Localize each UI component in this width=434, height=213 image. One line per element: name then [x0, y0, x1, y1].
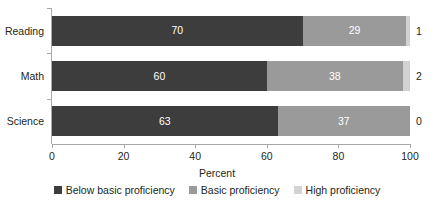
x-axis-tick-label: 0 [49, 151, 55, 162]
legend-item[interactable]: High proficiency [294, 185, 381, 196]
x-axis-tick-label: 80 [333, 151, 345, 162]
x-axis-tick [52, 144, 53, 148]
x-axis-tick-label: 60 [261, 151, 273, 162]
bar-segment[interactable]: 60 [52, 61, 267, 91]
legend-swatch-icon [294, 186, 302, 194]
x-axis-tick-label: 100 [401, 151, 419, 162]
bar-segment-value: 38 [329, 71, 341, 82]
bar-segment-value: 37 [338, 116, 350, 127]
stacked-bar-chart: Reading702911Math603822Science633700 020… [0, 0, 434, 213]
bar-segment[interactable]: 29 [303, 16, 407, 46]
y-axis-tick [47, 53, 52, 54]
bar-row[interactable]: Reading702911 [52, 16, 410, 46]
bar-segment-value: 29 [349, 25, 361, 36]
bar-segment[interactable]: 38 [267, 61, 403, 91]
legend-swatch-icon [54, 186, 62, 194]
y-axis-tick [47, 8, 52, 9]
category-label: Reading [5, 25, 44, 36]
legend-item-label: Basic proficiency [201, 185, 280, 196]
legend-item[interactable]: Basic proficiency [189, 185, 280, 196]
bar-row[interactable]: Science633700 [52, 106, 410, 136]
bar-segment[interactable]: 37 [278, 106, 410, 136]
bar-outside-value: 0 [416, 116, 422, 127]
x-axis-line [52, 144, 411, 145]
bar-segment-value: 60 [154, 71, 166, 82]
x-axis-tick [195, 144, 196, 148]
legend-swatch-icon [189, 186, 197, 194]
bar-outside-value: 2 [416, 71, 422, 82]
x-axis-tick [124, 144, 125, 148]
bar-segment[interactable]: 70 [52, 16, 303, 46]
x-axis-title: Percent [0, 168, 434, 179]
category-label: Math [21, 71, 44, 82]
bar-outside-value: 1 [416, 25, 422, 36]
x-axis-tick [410, 144, 411, 148]
plot-area: Reading702911Math603822Science633700 [52, 8, 410, 144]
bar-segment-value: 63 [159, 116, 171, 127]
x-axis-tick-label: 20 [118, 151, 130, 162]
bar-segment[interactable]: 63 [52, 106, 278, 136]
bar-row[interactable]: Math603822 [52, 61, 410, 91]
bar-segment-value: 70 [171, 25, 183, 36]
legend-item-label: High proficiency [306, 185, 381, 196]
legend-item-label: Below basic proficiency [66, 185, 175, 196]
bar-segment[interactable]: 2 [403, 61, 410, 91]
x-axis-tick [338, 144, 339, 148]
y-axis-tick [47, 99, 52, 100]
bar-segment[interactable]: 1 [406, 16, 410, 46]
category-label: Science [7, 116, 44, 127]
x-axis-tick [267, 144, 268, 148]
x-axis-tick-label: 40 [189, 151, 201, 162]
chart-legend: Below basic proficiencyBasic proficiency… [0, 185, 434, 196]
legend-item[interactable]: Below basic proficiency [54, 185, 175, 196]
